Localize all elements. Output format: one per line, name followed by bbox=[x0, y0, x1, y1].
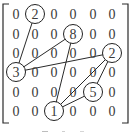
figure-caption-fragment bbox=[42, 131, 84, 132]
matrix-cell: 0 bbox=[90, 104, 97, 119]
matrix-cell: 0 bbox=[13, 27, 20, 42]
circled-node-n5: 5 bbox=[84, 83, 103, 102]
matrix-cell: 0 bbox=[32, 85, 39, 100]
matrix-cell: 0 bbox=[70, 85, 77, 100]
node-value: 8 bbox=[70, 27, 77, 42]
matrix-cell: 0 bbox=[90, 46, 97, 61]
matrix-cell: 0 bbox=[70, 104, 77, 119]
matrix-cell: 0 bbox=[109, 85, 116, 100]
node-value: 2 bbox=[109, 46, 116, 61]
matrix-cell: 0 bbox=[70, 65, 77, 80]
matrix-cell: 0 bbox=[109, 65, 116, 80]
circled-node-n2b: 2 bbox=[103, 44, 122, 63]
matrix-graph-figure: 000000000000000000000000000000 282351 bbox=[0, 0, 136, 135]
matrix-cell: 0 bbox=[90, 27, 97, 42]
circled-node-n2a: 2 bbox=[26, 5, 45, 24]
matrix-cell: 0 bbox=[109, 7, 116, 22]
matrix-cell: 0 bbox=[13, 7, 20, 22]
node-value: 1 bbox=[51, 104, 58, 119]
matrix-cell: 0 bbox=[13, 104, 20, 119]
matrix-cell: 0 bbox=[109, 27, 116, 42]
matrix-cell: 0 bbox=[90, 7, 97, 22]
matrix-cell: 0 bbox=[70, 46, 77, 61]
matrix-cell: 0 bbox=[13, 46, 20, 61]
node-value: 5 bbox=[90, 85, 97, 100]
node-value: 3 bbox=[13, 65, 20, 80]
matrix-cell: 0 bbox=[51, 65, 58, 80]
matrix-cell: 0 bbox=[51, 27, 58, 42]
matrix-cell: 0 bbox=[109, 104, 116, 119]
matrix-cell: 0 bbox=[51, 46, 58, 61]
matrix-cell: 0 bbox=[70, 7, 77, 22]
matrix-cell: 0 bbox=[51, 85, 58, 100]
matrix-cell: 0 bbox=[32, 104, 39, 119]
matrix-cell: 0 bbox=[51, 7, 58, 22]
circled-node-n1: 1 bbox=[45, 102, 64, 121]
right-bracket bbox=[122, 4, 128, 123]
matrix-cell: 0 bbox=[32, 65, 39, 80]
matrix-cell: 0 bbox=[13, 85, 20, 100]
circled-node-n8: 8 bbox=[64, 25, 83, 44]
matrix-cell: 0 bbox=[90, 65, 97, 80]
edge-n2b-n1 bbox=[54, 53, 112, 111]
left-bracket bbox=[3, 4, 9, 123]
matrix-cell: 0 bbox=[32, 27, 39, 42]
matrix-cell: 0 bbox=[32, 46, 39, 61]
circled-node-n3: 3 bbox=[7, 63, 26, 82]
node-value: 2 bbox=[32, 7, 39, 22]
